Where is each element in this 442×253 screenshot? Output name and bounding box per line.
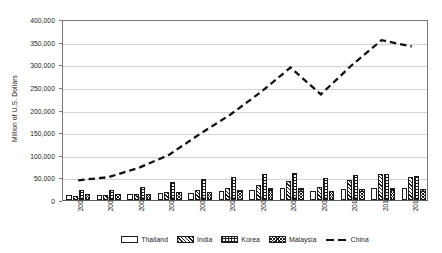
y-axis-tick-label: 150,000 [30,130,55,137]
x-axis-tick-2006: 2006 [225,203,235,211]
legend-swatch-thailand [121,236,138,244]
legend-swatch-china [326,236,348,244]
x-axis-tick-2009: 2009 [316,203,326,211]
plot-area [62,20,428,201]
x-axis-tick-2005: 2005 [194,203,204,211]
x-axis-tick-2007: 2007 [255,203,265,211]
y-axis-tick-label: 300,000 [30,62,55,69]
y-axis-tick-label: 250,000 [30,84,55,91]
legend-item-korea[interactable]: Korea [221,236,260,244]
legend-label: India [197,236,212,243]
x-axis-tick-label: 2003 [138,197,145,212]
x-axis-tick-2008: 2008 [286,203,296,211]
x-axis-labels: 2001200220032004200520062007200820092010… [62,203,428,233]
legend-item-thailand[interactable]: Thailand [121,236,168,244]
x-axis-tick-label: 2004 [169,197,176,212]
x-axis-tick-2011: 2011 [377,203,387,211]
y-axis-tick-label: 50,000 [34,175,55,182]
x-axis-tick-label: 2006 [230,197,237,212]
legend-label: China [351,236,369,243]
x-axis-tick-2001: 2001 [72,203,82,211]
x-axis-tick-label: 2010 [352,197,359,212]
legend-item-malaysia[interactable]: Malaysia [269,236,317,244]
legend-label: Malaysia [289,236,317,243]
x-axis-tick-label: 2002 [108,197,115,212]
y-axis-tick-mark [59,201,62,202]
x-axis-tick-label: 2005 [199,197,206,212]
y-axis-tick-label: 350,000 [30,39,55,46]
china-line-series [63,21,427,200]
legend-swatch-korea [221,236,238,244]
y-axis-ticks: 050,000100,000150,000200,000250,000300,0… [0,0,62,253]
y-axis-tick-label: 0 [51,198,55,205]
legend-item-china[interactable]: China [326,236,369,244]
x-axis-tick-2002: 2002 [103,203,113,211]
x-axis-tick-2010: 2010 [347,203,357,211]
x-axis-tick-label: 2011 [382,197,389,211]
legend-label: Thailand [141,236,168,243]
legend-swatch-malaysia [269,236,286,244]
x-axis-tick-label: 2008 [291,197,298,212]
x-axis-tick-2012: 2012 [408,203,418,211]
legend-item-india[interactable]: India [177,236,212,244]
x-axis-tick-label: 2012 [413,197,420,212]
x-axis-tick-label: 2007 [260,197,267,212]
y-axis-tick-label: 100,000 [30,152,55,159]
y-axis-tick-label: 400,000 [30,17,55,24]
y-axis-tick-label: 200,000 [30,107,55,114]
x-axis-tick-2004: 2004 [164,203,174,211]
legend-label: Korea [241,236,260,243]
china-line-path [78,40,412,180]
legend-swatch-india [177,236,194,244]
x-axis-tick-2003: 2003 [133,203,143,211]
chart-container: Million of U.S. Dollars 050,000100,00015… [0,0,442,253]
chart-legend: ThailandIndiaKoreaMalaysiaChina [62,233,428,246]
x-axis-tick-label: 2009 [321,197,328,212]
x-axis-tick-label: 2001 [77,197,84,212]
